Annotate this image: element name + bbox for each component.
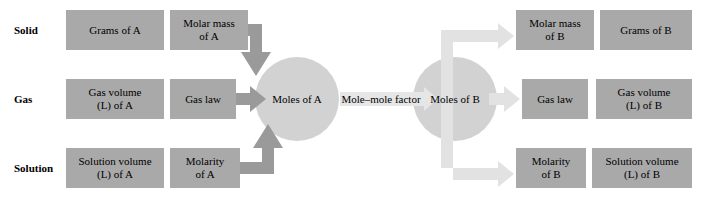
box-solution-volume-of-b-line2: (L) of B [605,168,678,181]
box-molar-mass-of-a[interactable]: Molar mass of A [170,10,248,50]
box-gas-law-a[interactable]: Gas law [170,79,236,119]
box-molarity-of-a[interactable]: Molarity of A [170,148,240,188]
row-label-solution: Solution [14,163,53,174]
hub-label-moles-of-a: Moles of A [262,94,332,105]
row-label-solid: Solid [14,25,38,36]
box-gas-volume-of-b[interactable]: Gas volume (L) of B [596,79,692,119]
box-gas-volume-of-b-line1: Gas volume [618,86,671,99]
box-molarity-of-b[interactable]: Molarity of B [516,148,586,188]
box-molar-mass-of-b-line1: Molar mass [529,17,581,30]
box-gas-law-b-line1: Gas law [537,93,573,106]
box-gas-law-a-line1: Gas law [185,93,221,106]
box-molarity-of-a-line2: of A [186,168,225,181]
box-grams-of-b[interactable]: Grams of B [600,10,692,50]
box-solution-volume-of-b[interactable]: Solution volume (L) of B [592,148,692,188]
box-molarity-of-a-line1: Molarity [186,155,225,168]
box-molar-mass-of-a-line1: Molar mass [183,17,235,30]
box-molarity-of-b-line2: of B [532,168,571,181]
label-mole-mole-factor: Mole–mole factor [338,94,424,105]
box-molar-mass-of-a-line2: of A [183,30,235,43]
box-solution-volume-of-a-line1: Solution volume [78,155,151,168]
box-molarity-of-b-line1: Molarity [532,155,571,168]
box-solution-volume-of-b-line1: Solution volume [605,155,678,168]
box-gas-law-b[interactable]: Gas law [522,79,588,119]
stoichiometry-flowchart: Solid Gas Solution Grams of A Molar mass… [0,0,701,198]
box-grams-of-a[interactable]: Grams of A [66,10,164,50]
box-grams-of-b-line1: Grams of B [620,24,671,37]
box-gas-volume-of-a-line2: (L) of A [89,99,142,112]
box-solution-volume-of-a[interactable]: Solution volume (L) of A [66,148,164,188]
box-solution-volume-of-a-line2: (L) of A [78,168,151,181]
box-gas-volume-of-b-line2: (L) of B [618,99,671,112]
box-gas-volume-of-a[interactable]: Gas volume (L) of A [66,79,164,119]
hub-label-moles-of-b: Moles of B [420,94,490,105]
box-molar-mass-of-b-line2: of B [529,30,581,43]
box-grams-of-a-line1: Grams of A [89,24,140,37]
row-label-gas: Gas [14,94,32,105]
box-molar-mass-of-b[interactable]: Molar mass of B [516,10,594,50]
box-gas-volume-of-a-line1: Gas volume [89,86,142,99]
